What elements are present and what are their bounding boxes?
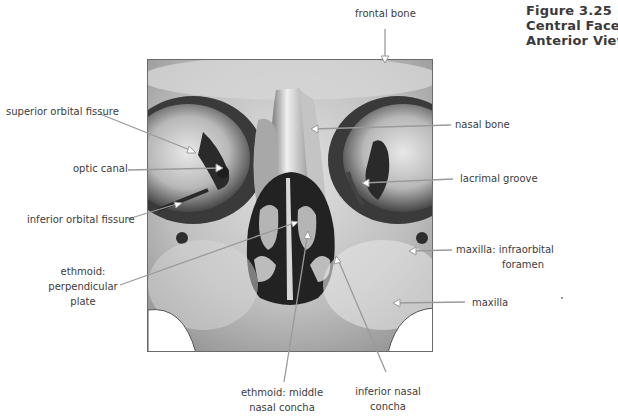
label-nasal-bone: nasal bone xyxy=(455,117,510,132)
figure-subtitle-line-1: Central Face, xyxy=(526,18,618,33)
label-maxilla: maxilla xyxy=(472,295,508,310)
label-ethmoid-middle-nasal-concha: ethmoid: middle nasal concha xyxy=(232,385,332,415)
label-maxilla-infraorbital-foramen: maxilla: infraorbital foramen xyxy=(456,242,544,272)
skull-illustration xyxy=(147,59,433,352)
label-ethmoid-perpendicular-plate: ethmoid: perpendicular plate xyxy=(46,264,120,309)
figure-number: Figure 3.25 xyxy=(526,3,618,18)
figure-title: Figure 3.25 Central Face, Anterior View xyxy=(526,3,618,48)
label-optic-canal: optic canal xyxy=(73,161,128,176)
label-inferior-orbital-fissure: inferior orbital fissure xyxy=(27,212,135,227)
figure-subtitle-line-2: Anterior View xyxy=(526,33,618,48)
label-frontal-bone: frontal bone xyxy=(355,6,416,21)
stray-mark xyxy=(561,297,563,299)
label-lacrimal-groove: lacrimal groove xyxy=(460,171,538,186)
label-superior-orbital-fissure: superior orbital fissure xyxy=(6,104,119,119)
label-inferior-nasal-concha: inferior nasal concha xyxy=(350,384,426,414)
skull-drawing xyxy=(148,60,433,352)
